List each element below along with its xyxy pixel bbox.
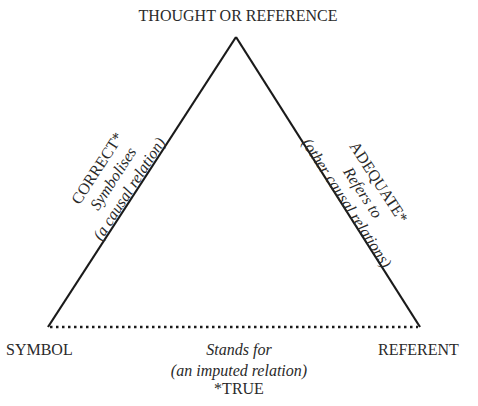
bottom-edge-label: Stands for (an imputed relation) *TRUE [134, 341, 344, 398]
vertex-thought-or-reference: THOUGHT OR REFERENCE [120, 7, 356, 25]
vertex-referent: REFERENT [378, 341, 459, 359]
vertex-symbol: SYMBOL [6, 341, 73, 359]
stands-for-label: Stands for [134, 341, 344, 359]
true-label: *TRUE [134, 380, 344, 398]
imputed-relation-label: (an imputed relation) [134, 362, 344, 380]
